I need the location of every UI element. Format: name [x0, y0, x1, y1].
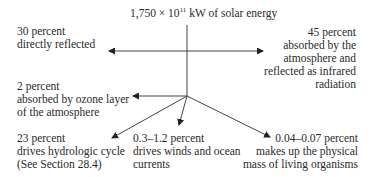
label-winds: 0.3–1.2 percentdrives winds and oceancur…	[133, 132, 241, 171]
label-absorbed-infrared: 45 percentabsorbed by the atmosphere and…	[264, 26, 356, 91]
solar-energy-title: 1,750 × 1011 kW of solar energy	[130, 7, 277, 20]
arrow-organisms	[187, 96, 270, 137]
label-hydrologic: 23 percentdrives hydrologic cycle(See Se…	[17, 132, 125, 171]
label-ozone: 2 percentabsorbed by ozone layerof the a…	[17, 80, 129, 119]
label-reflected: 30 percentdirectly reflected	[17, 25, 95, 51]
label-organisms: 0.04–0.07 percentmakes up the physicalma…	[243, 132, 358, 171]
